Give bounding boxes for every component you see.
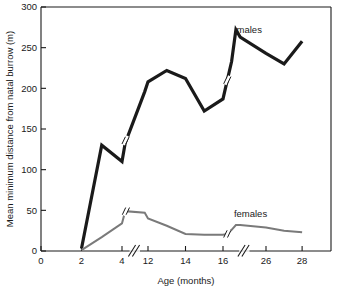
series-label-males: males — [237, 24, 263, 35]
series-annotations: malesfemales — [234, 24, 268, 219]
y-tick-label-0: 0 — [32, 245, 37, 256]
x-tick-label-0: 0 — [38, 255, 43, 266]
y-tick-label-100: 100 — [21, 164, 37, 175]
x-axis-tick-labels: 0241214162628 — [38, 255, 307, 266]
x-tick-label-4: 4 — [119, 255, 124, 266]
x-tick-label-16: 16 — [218, 255, 229, 266]
y-axis-tick-labels: 050100150200250300 — [21, 1, 37, 256]
y-tick-label-150: 150 — [21, 123, 37, 134]
series-line-males — [82, 30, 303, 249]
x-tick-label-26: 26 — [261, 255, 272, 266]
y-axis-title: Mean minimum distance from natal burrow … — [4, 31, 15, 227]
series-label-females: females — [234, 208, 268, 219]
x-axis-title: Age (months) — [157, 275, 214, 286]
y-axis-ticks — [41, 7, 46, 251]
y-tick-label-250: 250 — [21, 42, 37, 53]
y-tick-label-200: 200 — [21, 83, 37, 94]
chart-canvas: 050100150200250300 0241214162628 malesfe… — [0, 0, 340, 289]
y-tick-label-300: 300 — [21, 1, 37, 12]
plot-frame — [41, 7, 331, 251]
x-tick-label-14: 14 — [180, 255, 191, 266]
chart-figure: 050100150200250300 0241214162628 malesfe… — [0, 0, 340, 289]
x-tick-label-2: 2 — [79, 255, 84, 266]
data-series-lines — [82, 30, 303, 250]
series-break-marks — [122, 76, 231, 238]
y-tick-label-50: 50 — [26, 205, 37, 216]
x-tick-label-28: 28 — [297, 255, 308, 266]
x-axis-ticks — [41, 246, 302, 251]
x-tick-label-12: 12 — [143, 255, 154, 266]
series-line-females — [82, 211, 303, 250]
